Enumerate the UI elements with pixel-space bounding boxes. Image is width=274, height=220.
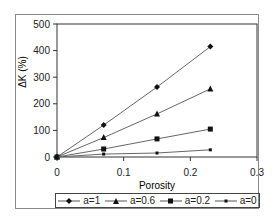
square-marker-icon xyxy=(160,197,182,205)
x-tick-label: 0.3 xyxy=(250,167,264,178)
legend-label: a=0 xyxy=(240,195,257,206)
x-tick-label: 0.1 xyxy=(117,167,131,178)
x-axis-label: Porosity xyxy=(139,180,175,191)
series-a=1 xyxy=(54,44,213,160)
legend: a=1 a=0.6 a=0.2 a=0 xyxy=(55,193,260,208)
y-tick-label: 400 xyxy=(33,45,50,56)
legend-label: a=0.6 xyxy=(130,195,155,206)
dot-marker-icon xyxy=(215,197,237,205)
legend-item-a02: a=0.2 xyxy=(160,195,210,206)
series-a=0.6 xyxy=(54,85,213,159)
y-tick-label: 0 xyxy=(44,152,50,163)
x-tick-label: 0.2 xyxy=(183,167,197,178)
legend-label: a=1 xyxy=(83,195,100,206)
diamond-marker-icon xyxy=(58,197,80,205)
y-tick-label: 100 xyxy=(33,125,50,136)
y-axis-label: ΔK (%) xyxy=(17,56,28,88)
y-tick-label: 200 xyxy=(33,98,50,109)
y-tick-label: 300 xyxy=(33,72,50,83)
legend-item-a1: a=1 xyxy=(58,195,100,206)
y-tick-label: 500 xyxy=(33,19,50,30)
triangle-marker-icon xyxy=(105,197,127,205)
legend-item-a0: a=0 xyxy=(215,195,257,206)
legend-item-a06: a=0.6 xyxy=(105,195,155,206)
legend-label: a=0.2 xyxy=(185,195,210,206)
line-chart: 010020030040050000.10.20.3 ΔK (%) Porosi… xyxy=(0,0,274,220)
series-lines xyxy=(54,44,213,160)
axes: 010020030040050000.10.20.3 xyxy=(33,19,264,179)
x-tick-label: 0 xyxy=(54,167,60,178)
